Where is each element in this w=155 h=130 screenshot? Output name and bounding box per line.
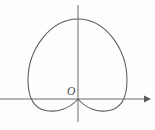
- cardioid-plot-svg: O: [0, 0, 155, 130]
- x-axis-arrow-icon: [144, 96, 151, 103]
- origin-label: O: [67, 85, 76, 97]
- math-figure: O: [0, 0, 155, 130]
